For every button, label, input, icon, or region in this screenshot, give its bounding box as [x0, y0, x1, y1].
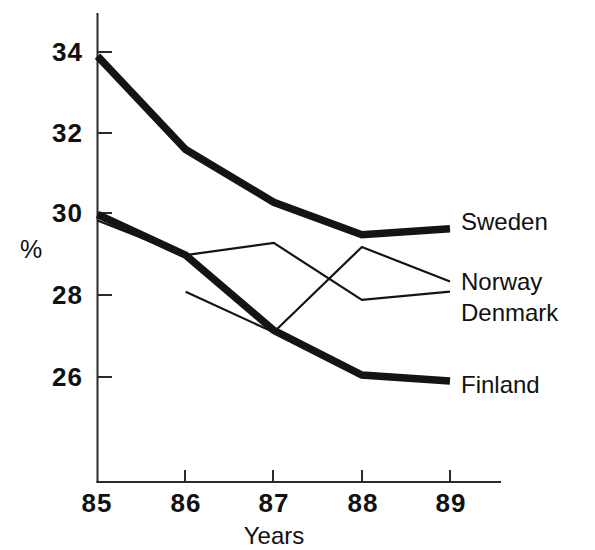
series-label-sweden: Sweden [461, 208, 548, 235]
y-axis-unit-label: % [20, 235, 42, 263]
series-labels: Sweden Norway Denmark Finland [461, 208, 559, 398]
x-tick-label-89: 89 [436, 488, 467, 518]
y-tick-labels: 34 32 30 28 26 [52, 37, 83, 392]
chart-canvas: 34 32 30 28 26 % 85 86 87 88 89 Years Sw… [0, 0, 595, 550]
x-tick-labels: 85 86 87 88 89 [82, 488, 467, 518]
series-label-finland: Finland [461, 371, 540, 398]
x-tick-marks [185, 470, 450, 482]
series-group [98, 56, 451, 381]
y-tick-label-32: 32 [52, 118, 83, 148]
series-label-norway: Norway [461, 268, 542, 295]
y-tick-label-34: 34 [52, 37, 83, 67]
y-tick-label-26: 26 [52, 362, 83, 392]
series-label-denmark: Denmark [461, 299, 559, 326]
line-chart: 34 32 30 28 26 % 85 86 87 88 89 Years Sw… [0, 0, 595, 550]
series-line-finland [98, 215, 451, 382]
x-axis-title: Years [244, 522, 305, 549]
axes-group [98, 14, 501, 482]
series-line-sweden [98, 56, 451, 235]
y-tick-label-28: 28 [52, 280, 83, 310]
x-tick-label-85: 85 [82, 488, 113, 518]
x-tick-label-87: 87 [259, 488, 290, 518]
x-tick-label-88: 88 [348, 488, 379, 518]
y-tick-label-30: 30 [52, 198, 83, 228]
x-tick-label-86: 86 [171, 488, 202, 518]
